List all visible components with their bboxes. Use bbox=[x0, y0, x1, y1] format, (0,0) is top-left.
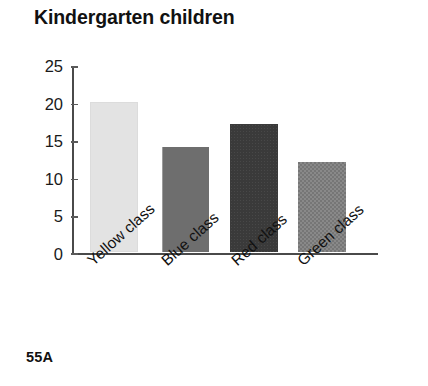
y-tick-label-15: 15 bbox=[45, 132, 63, 151]
y-tick-label-20: 20 bbox=[45, 94, 63, 113]
y-axis-tick-20 bbox=[71, 104, 78, 106]
bar-chart-figure: Kindergarten children 25 20 15 10 5 0 Ye… bbox=[0, 0, 428, 386]
y-tick-label-0: 0 bbox=[54, 245, 63, 264]
chart-title: Kindergarten children bbox=[34, 6, 235, 29]
y-axis-tick-10 bbox=[71, 179, 78, 181]
y-axis-tick-5 bbox=[71, 216, 78, 218]
y-axis-tick-25 bbox=[71, 66, 78, 68]
x-axis-line bbox=[72, 253, 378, 255]
y-axis-tick-15 bbox=[71, 141, 78, 143]
y-axis-line bbox=[72, 66, 74, 255]
y-tick-label-10: 10 bbox=[45, 169, 63, 188]
y-tick-label-5: 5 bbox=[54, 207, 63, 226]
y-tick-label-25: 25 bbox=[45, 57, 63, 76]
y-axis-tick-0 bbox=[71, 253, 78, 255]
figure-label: 55A bbox=[26, 349, 53, 365]
x-axis-tick-labels: Yellow class Blue class Red class Green … bbox=[72, 256, 402, 336]
y-axis-tick-labels: 25 20 15 10 5 0 bbox=[0, 66, 63, 254]
